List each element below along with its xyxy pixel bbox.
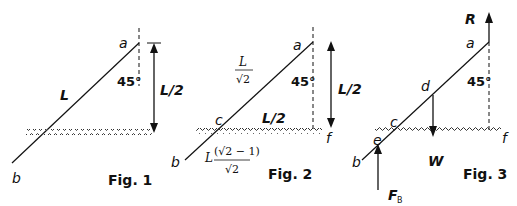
point-b-label: b [352,154,361,170]
point-c-label: c [390,114,398,130]
diagram-canvas: a b L 45° L/2 Fig. 1 a c b f 45° L/2 L/2… [0,0,517,206]
figure-2: a c b f 45° L/2 L/2 L √2 L (√2 − 1) √2 F… [171,27,362,182]
figure-3: R a d c e b f 45° W F B Fig. 3 [352,11,509,205]
point-a-label: a [466,35,475,51]
arrow-head-up-icon [485,12,493,23]
point-b-label: b [12,170,21,186]
horizontal-label: L/2 [262,110,286,126]
point-b-label: b [171,154,180,170]
weight-label: W [428,153,444,169]
water-surface [196,128,322,134]
figure-caption: Fig. 3 [463,166,507,182]
point-c-label: c [215,112,223,128]
angle-label: 45° [117,74,142,89]
angle-label: 45° [291,74,316,89]
rod [185,42,313,160]
fraction-numerator: L [238,55,247,69]
lower-segment-fraction: L (√2 − 1) √2 [204,145,260,176]
fraction-numerator: (√2 − 1) [214,145,260,158]
arrow-head-down-icon [327,118,335,128]
height-label: L/2 [338,81,362,97]
point-d-label: d [421,78,430,94]
point-a-label: a [293,37,302,53]
arrow-head-up-icon [327,41,335,51]
rod-length-label: L [60,87,69,103]
water-surface [26,129,152,135]
fraction-denominator: √2 [236,73,250,86]
point-e-label: e [373,132,382,148]
figure-1: a b L 45° L/2 Fig. 1 [12,28,184,188]
rod [12,43,139,163]
point-f-label: f [326,130,333,146]
figure-caption: Fig. 2 [268,166,312,182]
point-a-label: a [119,35,128,51]
angle-label: 45° [467,74,492,89]
point-f-label: f [502,130,509,146]
height-label: L/2 [160,82,184,98]
arrow-head-up-icon [150,43,158,53]
fraction-coefficient: L [204,151,213,165]
upper-segment-fraction: L √2 [235,55,253,86]
buoyancy-force-subscript: B [397,196,403,205]
fraction-denominator: √2 [225,163,239,176]
reaction-force-label: R [465,11,476,27]
figure-caption: Fig. 1 [108,172,152,188]
